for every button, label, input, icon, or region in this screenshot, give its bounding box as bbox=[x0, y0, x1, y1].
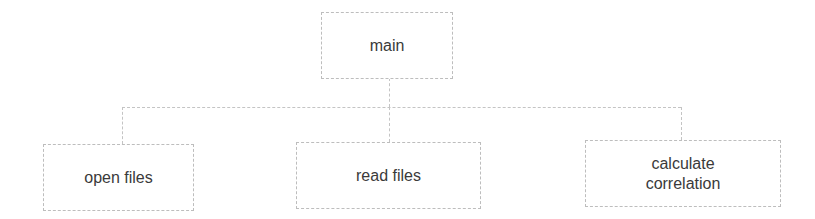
connector-root-down bbox=[389, 78, 390, 107]
node-read-files-label: read files bbox=[356, 166, 421, 186]
node-open-files-label: open files bbox=[84, 168, 153, 188]
node-main-label: main bbox=[370, 36, 405, 56]
node-calculate-correlation-line2: correlation bbox=[646, 174, 721, 194]
node-main: main bbox=[321, 12, 453, 79]
connector-child-3 bbox=[681, 107, 682, 140]
node-calculate-correlation-line1: calculate bbox=[651, 154, 714, 174]
node-calculate-correlation: calculate correlation bbox=[585, 140, 781, 207]
node-open-files: open files bbox=[43, 144, 194, 211]
node-read-files: read files bbox=[296, 142, 481, 209]
connector-child-2 bbox=[389, 107, 390, 142]
connector-child-1 bbox=[122, 107, 123, 144]
connector-horizontal bbox=[122, 107, 681, 108]
